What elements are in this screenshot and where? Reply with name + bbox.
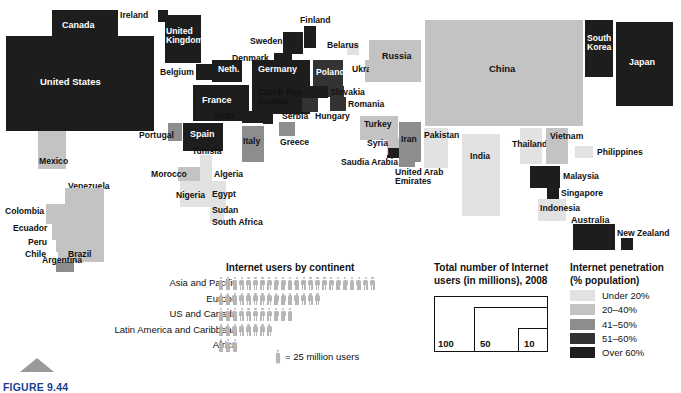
country-block-algeria[interactable] (200, 167, 212, 181)
country-label-south-africa: South Africa (212, 218, 263, 227)
country-block-greece[interactable] (279, 122, 295, 136)
person-icon (225, 324, 231, 337)
person-icon (218, 293, 224, 306)
country-label-ireland: Ireland (120, 11, 148, 20)
country-block-singapore[interactable] (547, 188, 559, 199)
country-label-singapore: Singapore (561, 189, 603, 198)
country-label-israel: Israel (366, 148, 388, 157)
person-icon (239, 277, 245, 290)
country-label-algeria: Algeria (214, 170, 243, 179)
country-block-austria[interactable] (263, 112, 273, 124)
color-legend-rows: Under 20%20–40%41–50%51–60%Over 60% (570, 290, 680, 358)
color-legend-label: Over 60% (602, 347, 644, 358)
color-legend-label: 41–50% (602, 319, 637, 330)
country-label-france: France (202, 96, 232, 105)
person-icon (314, 293, 320, 306)
person-icon (232, 324, 238, 337)
color-legend-item[interactable]: 20–40% (570, 304, 680, 315)
person-icon (370, 277, 376, 290)
country-label-hungary: Hungary (315, 112, 350, 121)
country-label-argentina: Argentina (42, 256, 82, 265)
person-icon (280, 277, 286, 290)
country-label-belarus: Belarus (327, 41, 359, 50)
person-icon (287, 293, 293, 306)
country-block-sweden[interactable] (283, 32, 303, 54)
country-block-australia[interactable] (573, 224, 615, 250)
person-icon (225, 277, 231, 290)
country-block-ecuador[interactable] (52, 224, 66, 240)
country-block-philippines[interactable] (575, 146, 593, 158)
country-block-colombia[interactable] (46, 204, 66, 224)
color-legend-item[interactable]: 51–60% (570, 333, 680, 344)
pictogram-row: Africa (120, 339, 420, 354)
size-legend-title: Total number of Internet users (in milli… (434, 262, 559, 287)
country-block-finland[interactable] (304, 26, 316, 48)
person-icon (239, 293, 245, 306)
country-label-mexico: Mexico (39, 157, 68, 166)
country-label-united-kingdom: UnitedKingdom (166, 27, 203, 44)
color-legend-item[interactable]: Over 60% (570, 347, 680, 358)
size-box-label-10: 10 (524, 338, 535, 349)
color-legend-item[interactable]: Under 20% (570, 290, 680, 301)
pictogram-row: US and Canada (120, 308, 420, 323)
person-icon (232, 308, 238, 321)
country-label-australia: Australia (571, 216, 610, 225)
pictogram-key: = 25 million users (275, 350, 359, 363)
person-icon (225, 308, 231, 321)
person-icon (232, 339, 238, 352)
country-block-romania[interactable] (330, 97, 346, 111)
person-icon (314, 277, 320, 290)
country-label-japan: Japan (629, 58, 655, 67)
country-block-united-arab-emirates[interactable] (399, 157, 415, 167)
pictogram-figures (218, 277, 376, 290)
pictogram-row: Latin America and Caribbean (120, 324, 420, 339)
person-icon (342, 277, 348, 290)
color-legend-swatch (570, 304, 595, 315)
person-icon (259, 324, 265, 337)
country-label-philippines: Philippines (597, 148, 643, 157)
person-icon (335, 277, 341, 290)
country-label-tunisia: Tunisia (192, 147, 221, 156)
country-label-united-arab-emirates: United ArabEmirates (395, 168, 443, 185)
country-block-czech-rep[interactable] (310, 86, 328, 98)
country-block-india[interactable] (462, 134, 500, 216)
country-block-belgium[interactable] (196, 64, 212, 80)
person-icon (218, 324, 224, 337)
person-icon (266, 308, 272, 321)
color-legend-swatch (570, 290, 595, 301)
person-icon (252, 277, 258, 290)
person-icon (239, 324, 245, 337)
person-icon (356, 277, 362, 290)
person-icon (252, 308, 258, 321)
country-label-new-zealand: New Zealand (617, 229, 670, 238)
figure-number: FIGURE 9.44 (3, 381, 68, 393)
color-legend-item[interactable]: 41–50% (570, 319, 680, 330)
country-label-turkey: Turkey (364, 120, 392, 129)
person-icon (218, 339, 224, 352)
person-icon (232, 293, 238, 306)
country-label-sweden: Sweden (250, 37, 282, 46)
person-icon (301, 277, 307, 290)
country-label-malaysia: Malaysia (563, 172, 599, 181)
country-label-spain: Spain (190, 130, 215, 139)
country-block-tunisia[interactable] (200, 155, 212, 167)
country-block-malaysia[interactable] (530, 166, 560, 188)
country-label-pakistan: Pakistan (424, 131, 459, 140)
triangle-marker-icon (20, 358, 54, 372)
country-block-syria[interactable] (387, 138, 399, 148)
color-legend: Internet penetration (% population) Unde… (570, 262, 680, 358)
country-block-peru[interactable] (56, 240, 66, 252)
person-icon (294, 277, 300, 290)
country-label-nigeria: Nigeria (176, 191, 205, 200)
country-label-vietnam: Vietnam (550, 132, 583, 141)
person-icon (275, 350, 281, 364)
country-label-slovakia: Slovakia (330, 88, 365, 97)
pictogram-figures (218, 293, 320, 306)
pictogram-key-label: = 25 million users (285, 351, 359, 362)
person-icon (308, 277, 314, 290)
pictogram-figures (218, 308, 293, 321)
country-block-hungary[interactable] (302, 98, 318, 112)
person-icon (259, 293, 265, 306)
country-block-new-zealand[interactable] (621, 238, 633, 250)
